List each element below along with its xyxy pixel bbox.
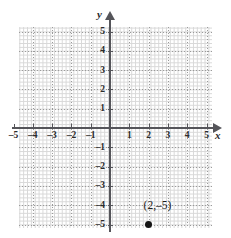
y-axis-tick	[108, 32, 113, 33]
y-axis-arrow-icon	[105, 11, 115, 20]
x-tick-label: 4	[177, 131, 197, 141]
gridline-horizontal	[19, 147, 212, 148]
y-tick-label: –2	[87, 162, 105, 172]
y-tick-label: 5	[87, 27, 105, 37]
x-axis-label: x	[215, 130, 221, 141]
x-tick-label: –5	[4, 131, 24, 141]
y-axis-tick	[108, 186, 113, 187]
x-tick-label: 3	[158, 131, 178, 141]
coordinate-plane-figure: –5–4–3–2–11234554321–1–2–3–4–5 x y (2,–5…	[0, 0, 231, 238]
y-tick-label: –1	[87, 143, 105, 153]
x-tick-label: –3	[42, 131, 62, 141]
x-tick-label: –2	[61, 131, 81, 141]
gridline-horizontal	[19, 167, 212, 168]
x-axis-tick	[14, 124, 15, 129]
y-axis-tick	[108, 147, 113, 148]
y-axis-label: y	[97, 9, 102, 20]
x-axis-tick	[129, 124, 130, 129]
gridline-horizontal	[19, 89, 212, 90]
point-coordinate-label: (2,–5)	[144, 200, 172, 212]
y-tick-label: 3	[87, 66, 105, 76]
y-axis-tick	[108, 167, 113, 168]
x-axis-tick	[52, 124, 53, 129]
y-axis-tick	[108, 51, 113, 52]
x-tick-label: 1	[119, 131, 139, 141]
x-tick-label: –1	[81, 131, 101, 141]
y-axis-tick	[108, 205, 113, 206]
gridline-horizontal	[19, 70, 212, 71]
x-axis-line	[12, 127, 215, 129]
x-axis-tick	[149, 124, 150, 129]
x-axis-tick	[33, 124, 34, 129]
x-axis-tick	[187, 124, 188, 129]
x-axis-tick	[207, 124, 208, 129]
gridline-horizontal	[19, 186, 212, 187]
gridline-horizontal	[19, 109, 212, 110]
gridline-horizontal	[19, 225, 212, 226]
y-tick-label: –3	[87, 181, 105, 191]
gridline-horizontal	[19, 205, 212, 206]
gridline-horizontal	[19, 32, 212, 33]
y-tick-label: –4	[87, 201, 105, 211]
y-axis-tick	[108, 109, 113, 110]
y-tick-label: 1	[87, 104, 105, 114]
y-axis-tick	[108, 70, 113, 71]
x-axis-tick	[168, 124, 169, 129]
x-axis-tick	[91, 124, 92, 129]
y-tick-label: 4	[87, 46, 105, 56]
gridline-horizontal	[19, 51, 212, 52]
y-axis-tick	[108, 89, 113, 90]
y-tick-label: 2	[87, 85, 105, 95]
y-axis-tick	[108, 225, 113, 226]
x-tick-label: –4	[23, 131, 43, 141]
x-tick-label: 5	[197, 131, 217, 141]
x-axis-tick	[71, 124, 72, 129]
y-tick-label: –5	[87, 220, 105, 230]
y-axis-line	[109, 17, 111, 232]
x-tick-label: 2	[139, 131, 159, 141]
